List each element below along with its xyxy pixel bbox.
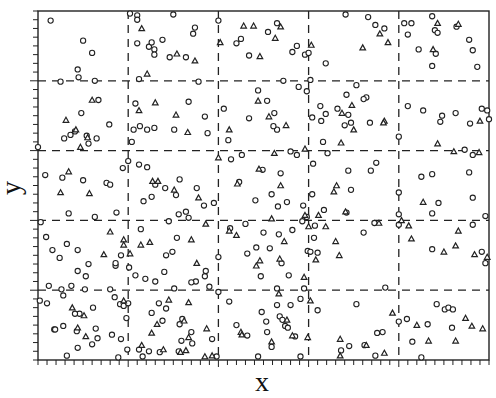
circle-marker [59,287,64,292]
triangle-marker [272,35,278,40]
circle-marker [201,203,206,208]
triangle-marker [186,300,192,305]
circle-marker [127,265,132,270]
circle-marker [343,12,348,17]
circle-marker [269,192,274,197]
circle-marker [402,21,407,26]
triangle-marker [149,330,155,335]
circle-marker [436,200,441,205]
circle-marker [246,53,251,58]
triangle-marker [139,342,145,347]
circle-marker [243,221,248,226]
circle-marker [160,318,165,323]
triangle-marker [360,45,366,50]
circle-marker [62,136,67,141]
circle-marker [294,152,299,157]
circle-marker [186,99,191,104]
circle-marker [439,113,444,118]
triangle-marker [277,256,283,261]
circle-marker [354,83,359,88]
circle-marker [192,25,197,30]
triangle-marker [351,127,357,132]
circle-marker [315,250,320,255]
circle-marker [479,249,484,254]
circle-marker [310,192,315,197]
triangle-marker [202,354,208,359]
circle-marker [346,112,351,117]
circle-marker [296,84,301,89]
circle-marker [354,302,359,307]
circle-marker [50,247,55,252]
circle-marker [335,106,340,111]
triangle-marker [147,239,153,244]
triangle-marker [406,223,412,228]
circle-marker [145,127,150,132]
circle-marker [409,21,414,26]
triangle-marker [171,187,177,192]
circle-marker [48,18,53,23]
circle-marker [301,286,306,291]
circle-marker [306,50,311,55]
circle-marker [312,223,317,228]
circle-marker [265,329,270,334]
circle-marker [135,41,140,46]
circle-marker [479,106,484,111]
circle-marker [470,48,475,53]
circle-marker [298,354,303,359]
circle-marker [265,29,270,34]
triangle-marker [338,140,344,145]
triangle-marker [284,317,290,322]
triangle-marker [382,350,388,355]
circle-marker [179,338,184,343]
circle-marker [61,323,66,328]
triangle-marker [301,274,307,279]
circle-marker [342,123,347,128]
circle-marker [149,310,154,315]
circle-marker [325,151,330,156]
triangle-marker [456,228,462,233]
triangle-marker [451,149,457,154]
circle-marker [374,160,379,165]
triangle-marker [185,129,191,134]
circle-marker [396,190,401,195]
triangle-marker [309,42,315,47]
circle-marker [278,171,283,176]
circle-marker [284,199,289,204]
circle-marker [419,355,424,360]
circle-markers [35,11,491,360]
circle-marker [323,111,328,116]
circle-marker [239,152,244,157]
triangle-marker [337,336,343,341]
triangle-marker [441,249,447,254]
circle-marker [470,222,475,227]
circle-marker [57,255,62,260]
circle-marker [300,219,305,224]
circle-marker [346,168,351,173]
circle-marker [149,194,154,199]
circle-marker [53,327,58,332]
circle-marker [136,162,141,167]
triangle-marker [453,243,459,248]
circle-marker [216,289,221,294]
circle-marker [109,332,114,337]
triangle-marker [399,218,405,223]
circle-marker [114,210,119,215]
circle-marker [44,234,49,239]
circle-marker [160,37,165,42]
circle-marker [238,36,243,41]
circle-marker [190,341,195,346]
circle-marker [189,280,194,285]
triangle-marker [69,305,75,310]
triangle-marker [305,335,311,340]
circle-marker [318,104,323,109]
circle-marker [90,305,95,310]
circle-marker [245,251,250,256]
circle-marker [163,186,168,191]
circle-marker [189,329,194,334]
circle-marker [255,88,260,93]
triangle-marker [251,23,257,28]
circle-marker [301,203,306,208]
circle-marker [177,177,182,182]
circle-marker [430,247,435,252]
circle-marker [90,342,95,347]
